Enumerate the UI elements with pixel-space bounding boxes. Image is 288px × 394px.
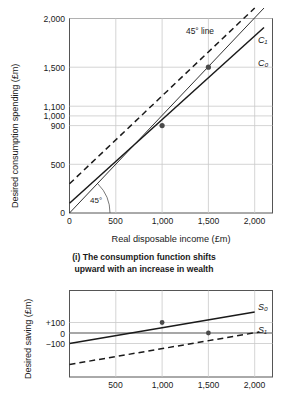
x-tick-2000-saving: 2,000 [238, 380, 271, 390]
figure-consumption-and-saving-functions: Desired consumption spending (£m) 2,000 … [0, 0, 288, 394]
figure-caption-line-2: upward with an increase in wealth [14, 264, 274, 276]
y-tick-2000: 2,000 [18, 14, 65, 24]
x-tick-500-saving: 500 [101, 380, 130, 390]
y-tick-zero: 0 [26, 329, 65, 339]
curve-label-c1: C₁ [258, 35, 267, 45]
chart-saving-function: Desired saving (£m) +100 0 −100 [0, 283, 288, 394]
x-axis-title-income: Real disposable income (£m) [69, 234, 273, 244]
curve-label-s0: S₀ [258, 302, 268, 312]
chart-consumption-function: Desired consumption spending (£m) 2,000 … [0, 0, 288, 232]
x-tick-0: 0 [55, 216, 84, 226]
y-axis-title-consumption: Desired consumption spending (£m) [10, 64, 20, 208]
x-tick-2000: 2,000 [238, 216, 271, 226]
y-tick-1000: 1,000 [18, 111, 65, 121]
x-tick-500: 500 [101, 216, 130, 226]
x-tick-1500: 1,500 [192, 216, 225, 226]
y-tick-1500: 1,500 [18, 63, 65, 73]
y-tick-1100: 1,100 [18, 102, 65, 112]
x-tick-1000-saving: 1,000 [146, 380, 179, 390]
y-tick-minus-100: −100 [26, 339, 65, 349]
data-point-c1-1500-1500 [206, 65, 211, 70]
y-tick-900: 900 [18, 121, 65, 131]
x-tick-1500-saving: 1,500 [192, 380, 225, 390]
x-tick-1000: 1,000 [146, 216, 179, 226]
y-tick-plus-100: +100 [26, 318, 65, 328]
curve-label-s1: S₁ [258, 325, 267, 335]
y-tick-500: 500 [18, 160, 65, 170]
annotation-45-degree-line: 45° line [186, 26, 214, 36]
figure-caption-line-1: (i) The consumption function shifts [14, 252, 274, 264]
curve-label-c0: C₀ [258, 58, 268, 68]
data-point-c0-1000-900 [160, 123, 165, 128]
annotation-45-degree-angle: 45° [90, 196, 102, 205]
data-point-s0-1000-100 [160, 320, 165, 325]
data-point-s1-1500-0 [206, 331, 211, 336]
